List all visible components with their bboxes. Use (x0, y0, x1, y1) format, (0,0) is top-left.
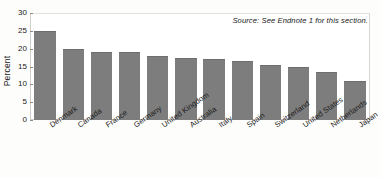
bar (260, 65, 281, 120)
y-axis-tick-label: 10 (0, 79, 30, 89)
x-axis-labels: DenmarkCanadaFranceGermanyUnited Kingdom… (0, 120, 380, 178)
y-axis-tick-label: 15 (0, 62, 30, 72)
y-axis-tick-label: 5 (0, 97, 30, 107)
bar (232, 61, 253, 120)
bar-chart-figure: Percent 051015202530 DenmarkCanadaFrance… (0, 0, 380, 178)
y-axis-tick-label: 30 (0, 8, 30, 18)
source-note: Source: See Endnote 1 for this section. (232, 16, 368, 25)
y-axis-tick-label: 25 (0, 26, 30, 36)
y-axis-tick-label: 20 (0, 44, 30, 54)
bar (34, 31, 55, 120)
